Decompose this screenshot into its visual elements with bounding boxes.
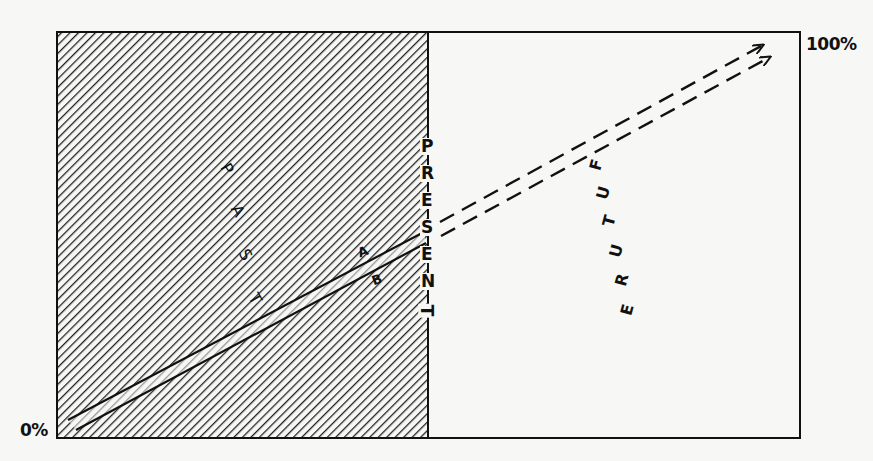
label-0-percent: 0% xyxy=(20,420,48,440)
label-100-percent: 100% xyxy=(806,34,857,54)
present-letter-r: R xyxy=(420,165,435,182)
present-letter-n: N xyxy=(420,273,436,290)
past-region xyxy=(57,32,428,438)
present-letter-s: S xyxy=(420,219,434,236)
future-arrow-b xyxy=(441,57,770,236)
time-diagram xyxy=(0,0,873,461)
present-letter-e2: E xyxy=(420,246,434,263)
present-letter-t: T xyxy=(418,304,435,318)
present-letter-p: P xyxy=(420,138,434,155)
present-letter-e1: E xyxy=(420,192,434,209)
